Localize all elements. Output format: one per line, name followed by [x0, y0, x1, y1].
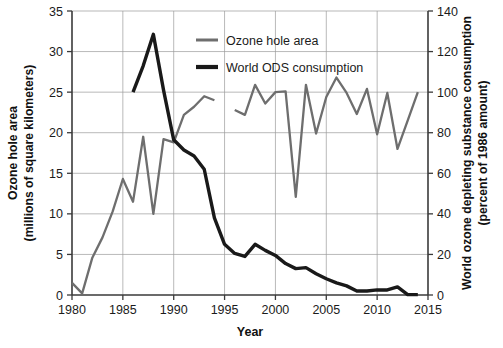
y2-tick-label: 60: [437, 167, 451, 181]
y2-tick-label: 0: [437, 289, 444, 303]
y-tick-label: 10: [49, 207, 63, 221]
y2-tick-label: 120: [437, 45, 458, 59]
legend-label: World ODS consumption: [226, 61, 363, 75]
y-tick-label: 35: [49, 5, 63, 19]
x-tick-label: 1985: [109, 303, 137, 317]
x-tick-label: 2005: [312, 303, 340, 317]
x-tick-label: 1990: [160, 303, 188, 317]
y2-tick-label: 140: [437, 5, 458, 19]
x-tick-label: 1995: [211, 303, 239, 317]
ozone-chart: 0510152025303502040608010012014019801985…: [0, 0, 503, 348]
y-tick-label: 30: [49, 45, 63, 59]
x-tick-label: 1980: [58, 303, 86, 317]
y2-tick-label: 80: [437, 126, 451, 140]
y2-axis-title-line2: (percent of 1986 amount): [476, 81, 490, 226]
x-tick-label: 2010: [363, 303, 391, 317]
x-tick-label: 2000: [262, 303, 290, 317]
chart-canvas: 0510152025303502040608010012014019801985…: [0, 0, 503, 348]
y-tick-label: 15: [49, 167, 63, 181]
y-tick-label: 5: [56, 248, 63, 262]
legend-label: Ozone hole area: [226, 34, 318, 48]
x-axis-title: Year: [237, 325, 264, 339]
y-tick-label: 25: [49, 86, 63, 100]
x-tick-label: 2015: [414, 303, 442, 317]
y2-tick-label: 100: [437, 86, 458, 100]
y-tick-label: 20: [49, 126, 63, 140]
y-axis-title-line1: Ozone hole area: [6, 106, 20, 200]
y2-tick-label: 40: [437, 207, 451, 221]
y-axis-title-line2: (millions of square kilometers): [22, 65, 36, 242]
y2-axis-title-line1: World ozone depleting substance consumpt…: [460, 16, 474, 290]
y2-tick-label: 20: [437, 248, 451, 262]
y-tick-label: 0: [56, 289, 63, 303]
